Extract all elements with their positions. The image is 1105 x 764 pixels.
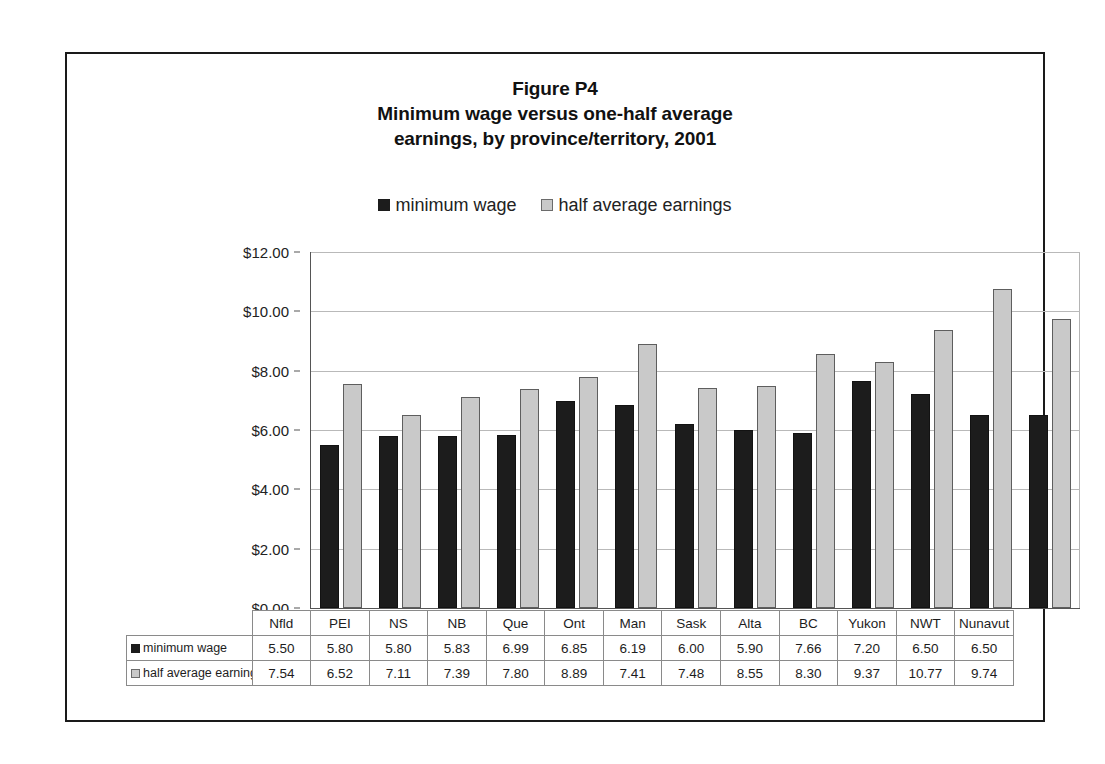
table-value-cell: 7.80 [486,661,545,686]
table-row: half average earnings7.546.527.117.397.8… [127,661,1014,686]
bar-minimum-wage [615,405,634,608]
figure-title: Figure P4 Minimum wage versus one-half a… [67,76,1043,151]
bar-minimum-wage [556,401,575,608]
title-line-3: earnings, by province/territory, 2001 [67,126,1043,151]
table-header-cell: NWT [896,611,955,636]
table-header-cell: PEI [311,611,370,636]
y-axis-tick-mark [294,489,300,490]
plot-wrapper: $12.00$10.00$8.00$6.00$4.00$2.00$0.00 [181,252,1079,608]
y-axis-tick-mark [294,608,300,609]
bar-minimum-wage [1029,415,1048,608]
bar-minimum-wage [675,424,694,608]
bar-group [488,252,547,608]
light-square-icon [541,199,553,211]
bar-half-average-earnings [1052,319,1071,608]
bars-layer [311,252,1080,608]
bar-minimum-wage [970,415,989,608]
table-row-label-text: minimum wage [143,641,227,655]
bar-group [1021,252,1080,608]
bar-half-average-earnings [520,389,539,608]
y-axis-tick-mark [294,548,300,549]
table-corner-cell [127,611,253,636]
bar-half-average-earnings [934,330,953,608]
table-row-label: minimum wage [127,636,253,661]
bar-half-average-earnings [461,397,480,608]
table-row-label: half average earnings [127,661,253,686]
data-table: NfldPEINSNBQueOntManSaskAltaBCYukonNWTNu… [126,610,1014,686]
table-value-cell: 8.89 [545,661,604,686]
bar-group [725,252,784,608]
bar-group [903,252,962,608]
dark-square-icon [131,644,140,653]
legend-item-half-average-earnings: half average earnings [541,194,731,216]
table-row-categories: NfldPEINSNBQueOntManSaskAltaBCYukonNWTNu… [127,611,1014,636]
bar-minimum-wage [379,436,398,608]
y-axis-tick-label: $12.00 [243,244,289,261]
legend-item-minimum-wage: minimum wage [378,194,516,216]
bar-half-average-earnings [698,388,717,608]
table-header-cell: Yukon [838,611,897,636]
table-value-cell: 10.77 [896,661,955,686]
y-axis-tick-mark [294,430,300,431]
y-axis-tick-label: $10.00 [243,303,289,320]
y-axis-tick-mark [294,311,300,312]
table-value-cell: 5.83 [428,636,487,661]
table-value-cell: 6.00 [662,636,721,661]
table-value-cell: 6.52 [311,661,370,686]
title-line-2: Minimum wage versus one-half average [67,101,1043,126]
table-header-cell: Nfld [252,611,311,636]
y-axis-tick-mark [294,370,300,371]
table-value-cell: 7.39 [428,661,487,686]
bar-half-average-earnings [993,289,1012,609]
table-value-cell: 5.50 [252,636,311,661]
bar-minimum-wage [320,445,339,608]
chart-legend: minimum wage half average earnings [67,194,1043,216]
table-value-cell: 9.37 [838,661,897,686]
bar-group [666,252,725,608]
table-value-cell: 7.48 [662,661,721,686]
legend-label-half-average-earnings: half average earnings [558,195,731,215]
table-header-cell: NS [369,611,428,636]
bar-group [843,252,902,608]
table-header-cell: Man [603,611,662,636]
bar-minimum-wage [911,394,930,608]
bar-group [784,252,843,608]
y-axis-tick-label: $8.00 [251,362,289,379]
table-value-cell: 6.50 [896,636,955,661]
table-value-cell: 7.11 [369,661,428,686]
table-value-cell: 6.50 [955,636,1014,661]
y-axis: $12.00$10.00$8.00$6.00$4.00$2.00$0.00 [181,252,301,608]
bar-group [311,252,370,608]
bar-half-average-earnings [402,415,421,608]
y-axis-tick-label: $6.00 [251,422,289,439]
y-axis-tick-label: $4.00 [251,481,289,498]
bar-minimum-wage [793,433,812,608]
bar-group [548,252,607,608]
title-line-1: Figure P4 [67,76,1043,101]
legend-label-minimum-wage: minimum wage [395,195,516,215]
table-value-cell: 7.20 [838,636,897,661]
table-value-cell: 9.74 [955,661,1014,686]
bar-minimum-wage [438,436,457,608]
table-header-cell: Sask [662,611,721,636]
table-header-cell: Que [486,611,545,636]
light-square-icon [131,669,140,678]
table-value-cell: 8.30 [779,661,838,686]
table-row-label-text: half average earnings [143,666,252,680]
plot-area [310,252,1080,609]
bar-group [370,252,429,608]
figure-frame: Figure P4 Minimum wage versus one-half a… [65,52,1045,722]
bar-group [607,252,666,608]
table-header-cell: Alta [721,611,780,636]
table-value-cell: 8.55 [721,661,780,686]
table-value-cell: 5.80 [311,636,370,661]
table-value-cell: 6.19 [603,636,662,661]
table-value-cell: 6.99 [486,636,545,661]
table-value-cell: 6.85 [545,636,604,661]
bar-minimum-wage [852,381,871,608]
table-header-cell: Nunavut [955,611,1014,636]
bar-half-average-earnings [343,384,362,608]
table-value-cell: 7.41 [603,661,662,686]
y-axis-tick-label: $2.00 [251,540,289,557]
bar-half-average-earnings [579,377,598,608]
